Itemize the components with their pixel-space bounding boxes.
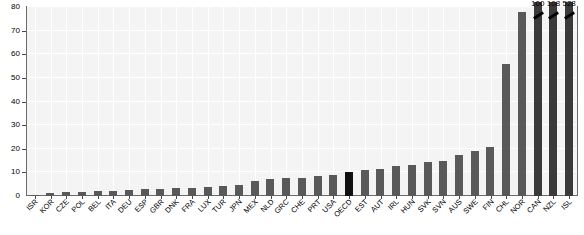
chart-root: 01020304050607080 100108528 ISRKORCZEPOL… xyxy=(0,0,584,235)
x-label-dnk: DNK xyxy=(164,198,181,215)
bar-value-label-isl: 528 xyxy=(558,0,580,8)
axis-break-mark xyxy=(548,11,559,19)
x-label-mex: MEX xyxy=(242,198,259,215)
x-label-fin: FIN xyxy=(481,198,495,212)
x-label-ita: ITA xyxy=(105,198,119,212)
x-label-nld: NLD xyxy=(259,198,275,214)
x-label-swe: SWE xyxy=(462,198,480,216)
x-label-esp: ESP xyxy=(133,198,149,214)
x-label-tur: TUR xyxy=(212,198,229,215)
axis-break-mark xyxy=(564,11,575,19)
x-label-bel: BEL xyxy=(87,198,103,214)
x-label-gbr: GBR xyxy=(148,198,165,215)
x-label-grc: GRC xyxy=(273,198,290,215)
x-label-isl: ISL xyxy=(560,198,574,212)
x-label-svn: SVN xyxy=(432,198,449,215)
axis-break-mark xyxy=(533,11,544,19)
x-label-deu: DEU xyxy=(117,198,134,215)
x-label-fra: FRA xyxy=(180,198,196,214)
x-axis-labels: ISRKORCZEPOLBELITADEUESPGBRDNKFRALUXTURJ… xyxy=(0,196,584,235)
x-label-aut: AUT xyxy=(369,198,385,214)
x-label-nzl: NZL xyxy=(542,198,558,214)
x-label-hun: HUN xyxy=(400,198,417,215)
x-label-lux: LUX xyxy=(196,198,212,214)
x-label-cze: CZE xyxy=(55,198,71,214)
x-label-pol: POL xyxy=(70,198,86,214)
x-label-prt: PRT xyxy=(306,198,322,214)
x-label-jpn: JPN xyxy=(228,198,244,214)
x-label-svk: SVK xyxy=(416,198,432,214)
x-label-est: EST xyxy=(354,198,370,214)
x-label-aus: AUS xyxy=(447,198,464,215)
x-label-nor: NOR xyxy=(509,198,526,215)
x-label-kor: KOR xyxy=(38,198,55,215)
x-label-isr: ISR xyxy=(25,198,40,213)
x-label-che: CHE xyxy=(290,198,307,215)
x-label-chl: CHL xyxy=(495,198,511,214)
x-label-can: CAN xyxy=(525,198,542,215)
